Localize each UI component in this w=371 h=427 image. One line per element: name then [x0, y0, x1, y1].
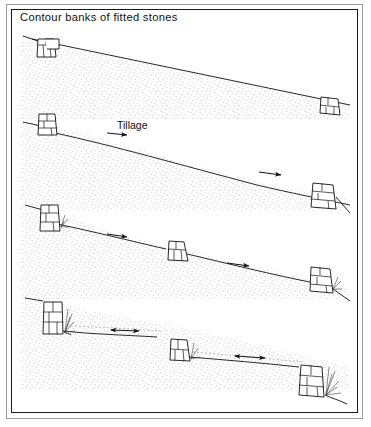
- stone-bank-icon: [168, 241, 188, 261]
- stone-bank-icon: [320, 97, 340, 115]
- tillage-arrow-icon: [259, 172, 281, 175]
- panel-1-initial-slope: [21, 36, 350, 119]
- panel-2-soil-stipple: [21, 122, 349, 211]
- panel-4-terraces-formed: [21, 298, 349, 404]
- panel-3-soil-accumulation: [21, 205, 350, 301]
- tillage-label: Tillage: [117, 119, 148, 131]
- stone-bank-icon: [38, 114, 57, 135]
- figure-container: Contour banks of fitted stones Tillage: [0, 0, 371, 427]
- panel-1-ground-left-stub: [23, 36, 38, 41]
- tillage-arrow-icon: [107, 133, 127, 135]
- panel-1-soil-stipple: [21, 40, 349, 119]
- stone-bank-icon: [37, 39, 59, 57]
- panel-2-tillage-begins: [21, 114, 350, 213]
- diagram-canvas: [11, 9, 358, 413]
- page-title: Contour banks of fitted stones: [20, 11, 178, 23]
